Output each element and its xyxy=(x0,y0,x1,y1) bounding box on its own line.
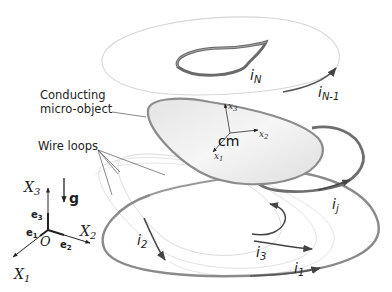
label-e3: e3 xyxy=(31,209,43,222)
label-e2: e2 xyxy=(60,239,72,252)
label-wire-loops: Wire loops xyxy=(38,139,98,153)
label-e1: e1 xyxy=(26,227,38,240)
label-conducting-1: Conducting xyxy=(40,88,106,102)
label-iN-1: iN-1 xyxy=(318,84,339,102)
label-conducting-2: micro-object xyxy=(40,102,113,116)
label-iN: iN xyxy=(250,67,262,85)
label-ij: ij xyxy=(332,196,339,214)
diagram-canvas: Conducting micro-object Wire loops cm x3… xyxy=(0,0,392,292)
top-wire-loop xyxy=(102,17,339,95)
label-X3: X3 xyxy=(23,179,40,197)
label-X1: X1 xyxy=(13,266,30,284)
label-i2: i2 xyxy=(137,232,147,250)
label-i3: i3 xyxy=(256,244,266,262)
label-X2: X2 xyxy=(79,223,96,241)
label-origin: O xyxy=(40,234,51,249)
label-i1: i1 xyxy=(294,260,304,278)
label-gravity: g xyxy=(69,190,79,206)
current-arrows-inner xyxy=(144,204,312,260)
label-cm: cm xyxy=(218,133,239,149)
current-arrow-iN1 xyxy=(283,68,336,92)
